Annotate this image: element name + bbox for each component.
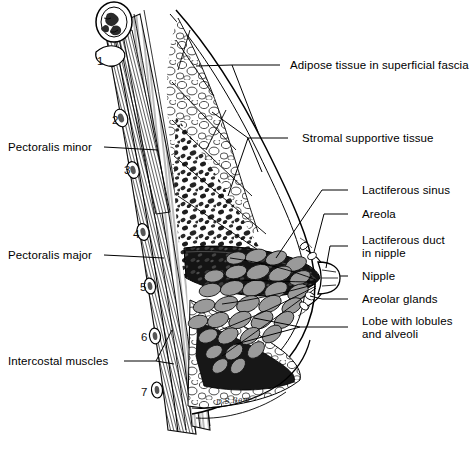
rib-number-5: 5 xyxy=(140,281,146,293)
label-areola: Areola xyxy=(362,208,396,221)
clavicle-cross-section xyxy=(96,2,132,42)
rib-number-3: 3 xyxy=(124,164,130,176)
label-adipose-tissue: Adipose tissue in superficial fascia xyxy=(290,59,469,72)
label-lactiferous-duct-in-nipple: Lactiferous duct in nipple xyxy=(362,234,445,259)
label-intercostal-muscles: Intercostal muscles xyxy=(8,355,108,368)
rib-number-4: 4 xyxy=(133,228,139,240)
rib-number-6: 6 xyxy=(141,331,147,343)
label-lobe-with-lobules: Lobe with lobules and alveoli xyxy=(362,315,453,340)
rib-number-7: 7 xyxy=(141,386,147,398)
label-areolar-glands: Areolar glands xyxy=(362,293,438,306)
breast-anatomy-figure: Adipose tissue in superficial fascia Str… xyxy=(0,0,473,470)
rib-number-2: 2 xyxy=(112,114,118,126)
label-lactiferous-sinus: Lactiferous sinus xyxy=(362,184,450,197)
rib-number-1: 1 xyxy=(97,55,103,67)
label-pectoralis-minor: Pectoralis minor xyxy=(8,141,92,154)
label-pectoralis-major: Pectoralis major xyxy=(8,249,92,262)
label-nipple: Nipple xyxy=(362,270,395,283)
label-stromal-tissue: Stromal supportive tissue xyxy=(302,132,434,145)
